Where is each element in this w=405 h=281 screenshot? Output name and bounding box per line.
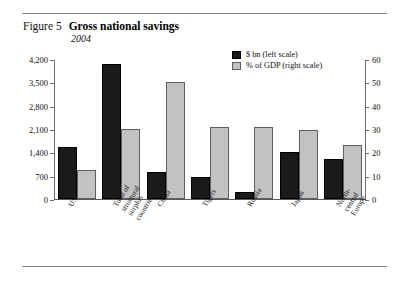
right-axis-tick <box>365 153 369 154</box>
page-title: Gross national savings <box>69 20 179 32</box>
left-axis-tick <box>50 177 54 178</box>
bar-group <box>58 60 96 199</box>
right-axis-tick-label: 0 <box>372 195 376 205</box>
x-axis-category-labels: USTotal of structural surplus countriesC… <box>55 202 367 262</box>
legend-label-dollars: $ bn (left scale) <box>246 50 298 59</box>
right-axis-tick <box>365 177 369 178</box>
plot-area: 07001,4002,1002,8003,5004,200 0102030405… <box>54 60 366 200</box>
bar-group <box>102 60 140 199</box>
right-axis-tick-label: 30 <box>372 125 381 135</box>
bottom-divider-rule <box>22 266 387 267</box>
right-axis-tick <box>365 130 369 131</box>
right-axis-tick <box>365 83 369 84</box>
x-axis-category: Total of structural surplus countries <box>101 202 143 262</box>
figure-container: Figure 5 Gross national savings 2004 $ b… <box>0 0 405 281</box>
figure-number: Figure 5 <box>23 20 62 32</box>
bar-group <box>324 60 362 199</box>
x-axis-category: US <box>56 202 98 262</box>
legend-item-dollars: $ bn (left scale) <box>232 50 322 59</box>
right-axis-tick <box>365 60 369 61</box>
right-axis-tick-label: 20 <box>372 148 381 158</box>
legend-swatch-dark-icon <box>232 51 241 59</box>
x-axis-category: Japan <box>279 202 321 262</box>
left-axis-tick-label: 2,100 <box>8 125 48 135</box>
left-axis-tick <box>50 130 54 131</box>
bar-percent-gdp <box>77 170 96 199</box>
bar-percent-gdp <box>299 130 318 199</box>
figure-subtitle: 2004 <box>71 33 91 44</box>
bar-series-container <box>55 60 365 199</box>
x-axis-category: Tigers <box>190 202 232 262</box>
left-axis-tick-label: 0 <box>8 195 48 205</box>
right-axis-tick-label: 40 <box>372 102 381 112</box>
right-axis-tick-label: 50 <box>372 78 381 88</box>
left-axis-tick-label: 2,800 <box>8 102 48 112</box>
bar-dollars <box>58 147 77 199</box>
left-axis-tick-label: 1,400 <box>8 148 48 158</box>
bar-group <box>280 60 318 199</box>
bar-group <box>147 60 185 199</box>
left-axis-tick <box>50 60 54 61</box>
x-axis-category: North-central Europe <box>324 202 366 262</box>
left-axis-tick <box>50 200 54 201</box>
left-axis-tick <box>50 107 54 108</box>
right-axis-tick <box>365 107 369 108</box>
left-axis-tick <box>50 153 54 154</box>
bar-group <box>191 60 229 199</box>
x-axis-category: Russia <box>235 202 277 262</box>
bar-percent-gdp <box>166 82 185 199</box>
top-divider-rule <box>22 13 387 14</box>
bar-dollars <box>102 64 121 199</box>
right-axis-tick-label: 60 <box>372 55 381 65</box>
bar-group <box>235 60 273 199</box>
left-axis-tick <box>50 83 54 84</box>
left-axis-tick-label: 3,500 <box>8 78 48 88</box>
x-axis-category: China <box>145 202 187 262</box>
left-axis-tick-label: 4,200 <box>8 55 48 65</box>
figure-heading: Figure 5 Gross national savings <box>23 20 179 32</box>
right-axis-tick-label: 10 <box>372 172 381 182</box>
left-axis-tick-label: 700 <box>8 172 48 182</box>
